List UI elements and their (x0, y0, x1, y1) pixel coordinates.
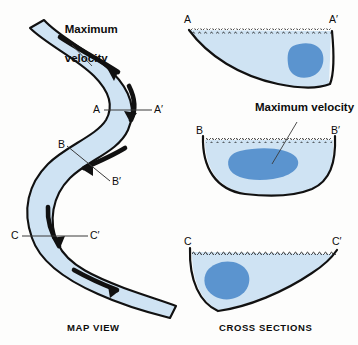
cross-maxvelocity-label: Maximum velocity (255, 100, 354, 114)
map-label-a-prime: A′ (154, 103, 163, 116)
map-view-caption: MAP VIEW (67, 322, 120, 334)
map-label-c-prime: C′ (90, 229, 100, 242)
map-maxvelocity-line1: Maximum (65, 23, 118, 35)
section-b-water-surface (206, 138, 332, 143)
river-velocity-diagram: Maximum velocity A A′ B B′ C C′ MAP VIEW… (0, 0, 358, 345)
cross-sections-caption: CROSS SECTIONS (219, 322, 312, 334)
section-a-water-surface (190, 29, 332, 34)
section-c-label-left: C (184, 235, 192, 248)
map-label-a: A (93, 103, 100, 116)
map-label-c: C (11, 229, 19, 242)
section-c-water-surface (192, 250, 336, 255)
cross-section-c (190, 248, 337, 311)
map-label-b: B (58, 138, 65, 151)
cross-section-a (189, 29, 333, 88)
map-label-b-prime: B′ (112, 175, 121, 188)
map-maxvelocity-line2: velocity (65, 52, 108, 64)
map-maxvelocity-label: Maximum velocity (52, 8, 118, 80)
section-a-label-left: A (184, 13, 191, 26)
cross-section-b (203, 122, 335, 196)
section-a-label-right: A′ (329, 13, 338, 26)
section-c-velocity-core (204, 262, 249, 300)
section-c-label-right: C′ (332, 235, 342, 248)
section-b-label-left: B (196, 124, 203, 137)
section-b-label-right: B′ (331, 124, 340, 137)
